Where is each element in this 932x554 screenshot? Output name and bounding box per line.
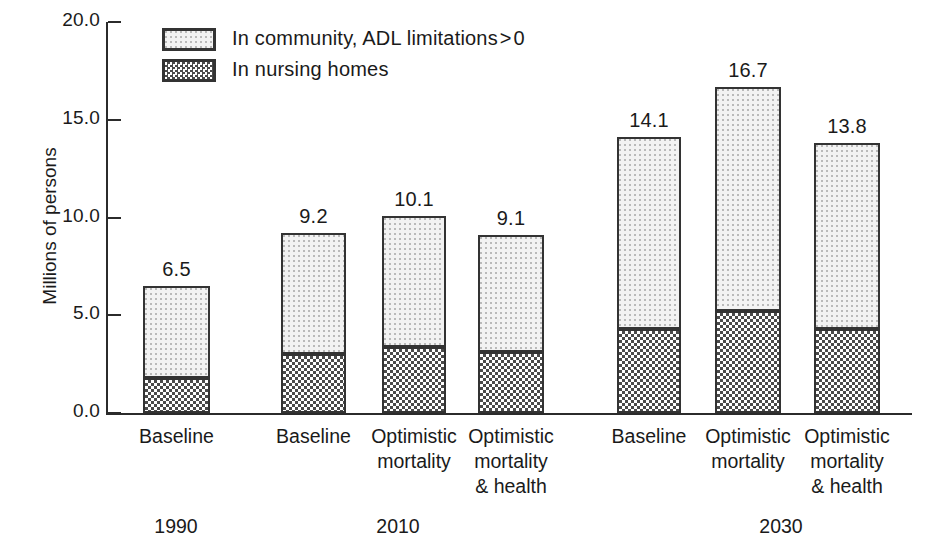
bar-value-label: 13.8 <box>789 115 905 138</box>
y-tick-15.0 <box>108 119 121 121</box>
bar-segment-community <box>715 87 781 312</box>
bar-segment-nursing <box>617 329 681 413</box>
category-label: Optimistic mortality <box>693 424 803 474</box>
bar-segment-nursing <box>281 354 346 413</box>
y-tick-20.0 <box>108 21 121 23</box>
y-tick-5.0 <box>108 314 121 316</box>
y-tick-label-10.0: 10.0 <box>30 205 100 227</box>
category-label: Baseline <box>121 424 232 449</box>
y-tick-0.0 <box>108 412 121 414</box>
x-axis-line <box>106 413 912 415</box>
category-label: Baseline <box>259 424 368 449</box>
legend-label-community: In community, ADL limitations > 0 <box>232 27 525 50</box>
category-label: Optimistic mortality & health <box>792 424 902 499</box>
legend-swatch-nursing <box>162 59 216 82</box>
legend-swatch-community <box>162 28 216 51</box>
y-tick-label-0.0: 0.0 <box>30 400 100 422</box>
y-tick-label-15.0: 15.0 <box>30 107 100 129</box>
group-label-2030: 2030 <box>721 515 841 538</box>
category-label: Baseline <box>595 424 703 449</box>
bar-segment-nursing <box>478 352 544 413</box>
bar-value-label: 16.7 <box>690 59 806 82</box>
bar-value-label: 6.5 <box>118 258 235 281</box>
bar-value-label: 9.2 <box>256 205 371 228</box>
bar-segment-community <box>617 137 681 329</box>
bar-segment-nursing <box>382 347 446 413</box>
bar-segment-community <box>143 286 210 378</box>
group-label-1990: 1990 <box>116 515 236 538</box>
category-label: Optimistic mortality & health <box>456 424 566 499</box>
y-tick-label-20.0: 20.0 <box>30 9 100 31</box>
group-label-2010: 2010 <box>338 515 458 538</box>
y-tick-10.0 <box>108 217 121 219</box>
stacked-bar-chart: Millions of persons 0.05.010.015.020.0 I… <box>0 0 932 554</box>
category-label: Optimistic mortality <box>360 424 468 474</box>
y-tick-label-5.0: 5.0 <box>30 302 100 324</box>
bar-value-label: 14.1 <box>592 109 706 132</box>
bar-segment-nursing <box>814 329 880 413</box>
bar-segment-community <box>814 143 880 329</box>
bar-segment-nursing <box>715 311 781 413</box>
bar-segment-community <box>382 216 446 347</box>
bar-value-label: 9.1 <box>453 207 569 230</box>
bar-segment-nursing <box>143 378 210 413</box>
legend-label-nursing: In nursing homes <box>232 58 389 81</box>
bar-segment-community <box>478 235 544 352</box>
bar-segment-community <box>281 233 346 354</box>
